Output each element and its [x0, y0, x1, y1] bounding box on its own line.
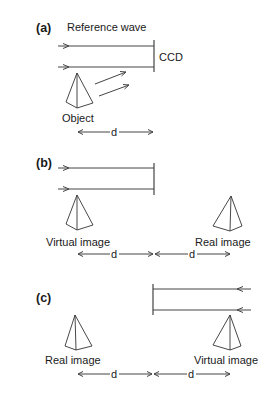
object-pyramid-icon [66, 73, 93, 108]
reference-wave-label: Reference wave [67, 21, 147, 33]
panel-c: (c) Real image Virtual image d [36, 284, 258, 380]
distance-indicator: d [78, 126, 153, 138]
distance-label: d [111, 368, 117, 380]
real-image-label: Real image [195, 236, 251, 248]
panel-b: (b) Virtual image Real image d [36, 156, 251, 260]
object-wave-arrows [95, 72, 129, 97]
distance-label: d [188, 368, 194, 380]
ccd-label: CCD [159, 51, 183, 63]
reconstruction-beam-arrows [58, 166, 154, 192]
distance-label: d [111, 126, 117, 138]
virtual-image-pyramid-icon [213, 315, 241, 350]
real-image-label: Real image [45, 354, 101, 366]
distance-indicator: d d [78, 248, 230, 260]
object-label: Object [62, 112, 94, 124]
real-image-pyramid-icon [65, 315, 92, 350]
panel-b-label: (b) [36, 156, 52, 170]
distance-indicator: d d [78, 368, 230, 380]
distance-label: d [111, 248, 117, 260]
virtual-image-pyramid-icon [66, 195, 93, 230]
virtual-image-label: Virtual image [194, 354, 258, 366]
holography-diagram: (a) Reference wave CCD Object [0, 0, 269, 407]
conjugate-beam-arrows [153, 287, 251, 313]
distance-label: d [189, 248, 195, 260]
panel-a-label: (a) [36, 21, 51, 35]
virtual-image-label: Virtual image [46, 236, 110, 248]
reference-beam-arrows [58, 44, 154, 70]
panel-a: (a) Reference wave CCD Object [36, 21, 183, 138]
panel-c-label: (c) [36, 291, 51, 305]
real-image-pyramid-icon [213, 196, 242, 231]
